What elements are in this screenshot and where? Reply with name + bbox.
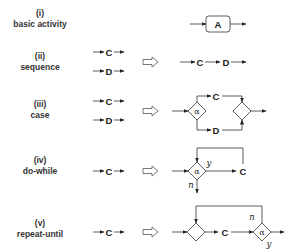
alpha-label: α: [259, 228, 265, 237]
transform-arrow-icon: [143, 106, 158, 116]
merge-diamond: [233, 102, 251, 120]
yes-label: y: [206, 158, 212, 168]
node-c: C: [197, 57, 204, 68]
no-label: n: [249, 212, 254, 222]
node-c: C: [213, 91, 220, 102]
node-c: C: [222, 227, 229, 238]
alpha-label: α: [194, 167, 200, 176]
node-d: D: [213, 125, 220, 136]
node-c: C: [106, 227, 113, 238]
transform-arrow-icon: [143, 227, 158, 237]
transform-arrow-icon: [143, 166, 158, 176]
alpha-label: α: [194, 107, 200, 116]
merge-diamond: [187, 223, 205, 241]
yes-label: y: [266, 239, 272, 249]
node-c: C: [240, 166, 247, 177]
node-c: C: [106, 47, 113, 58]
node-d: D: [223, 57, 230, 68]
diagram-canvas: A C D C D C D α C D C α y n C C C α n y: [0, 0, 298, 252]
do-while-output: [172, 148, 243, 193]
node-c: C: [106, 96, 113, 107]
node-d: D: [106, 66, 113, 77]
activity-a-label: A: [215, 19, 222, 30]
no-label: n: [188, 180, 193, 190]
transform-arrow-icon: [143, 57, 158, 67]
node-d: D: [106, 115, 113, 126]
node-c: C: [106, 166, 113, 177]
